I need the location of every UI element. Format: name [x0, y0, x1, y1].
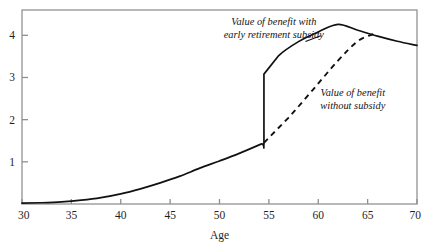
x-axis-title: Age: [210, 229, 229, 242]
x-tick-label-65: 65: [362, 209, 374, 221]
benefit-value-line-chart: 1234 303540455055606570 Value of benefit…: [0, 0, 428, 247]
x-tick-label-45: 45: [164, 209, 176, 221]
annotation-with-subsidy-line-2: early retirement subsidy: [224, 29, 325, 40]
x-tick-label-60: 60: [313, 209, 325, 221]
x-tick-label-50: 50: [214, 209, 226, 221]
y-tick-label-2: 2: [9, 114, 15, 126]
chart-container: 1234 303540455055606570 Value of benefit…: [0, 0, 428, 247]
y-tick-label-3: 3: [9, 71, 15, 83]
x-tick-label-55: 55: [263, 209, 275, 221]
x-tick-label-70: 70: [410, 209, 422, 221]
y-tick-label-1: 1: [9, 156, 15, 168]
x-tick-label-30: 30: [18, 209, 30, 221]
annotation-without-subsidy-line-2: without subsidy: [320, 100, 385, 111]
x-tick-label-40: 40: [115, 209, 127, 221]
annotation-without-subsidy-line-1: Value of benefit: [320, 87, 386, 98]
x-tick-label-35: 35: [66, 209, 78, 221]
annotation-with-subsidy-line-1: Value of benefit with: [231, 16, 316, 27]
y-tick-label-4: 4: [9, 29, 15, 41]
